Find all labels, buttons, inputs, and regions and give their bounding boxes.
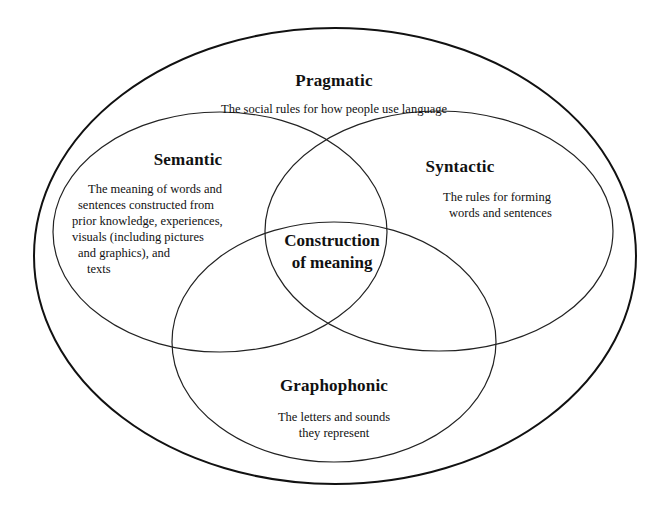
- graphophonic-title: Graphophonic: [249, 376, 419, 396]
- semantic-description: The meaning of words and sentences const…: [72, 181, 223, 277]
- syntactic-description: The rules for forming words and sentence…: [443, 189, 552, 221]
- semantic-desc-line: texts: [72, 261, 223, 277]
- semantic-desc-line: sentences constructed from: [72, 197, 223, 213]
- construction-of-meaning-label: Construction of meaning: [262, 230, 402, 274]
- semantic-desc-line: prior knowledge, experiences,: [72, 213, 223, 229]
- syntactic-desc-line: words and sentences: [443, 205, 552, 221]
- graphophonic-desc-line: they represent: [249, 425, 419, 441]
- pragmatic-description: The social rules for how people use lang…: [0, 101, 668, 117]
- syntactic-title: Syntactic: [395, 157, 525, 177]
- semantic-desc-line: and graphics), and: [72, 245, 223, 261]
- graphophonic-desc-line: The letters and sounds: [249, 409, 419, 425]
- pragmatic-title: Pragmatic: [0, 71, 668, 91]
- center-line-1: Construction: [262, 230, 402, 252]
- graphophonic-description: The letters and sounds they represent: [249, 409, 419, 441]
- semantic-title: Semantic: [128, 150, 248, 170]
- syntactic-desc-line: The rules for forming: [443, 189, 552, 205]
- semantic-desc-line: visuals (including pictures: [72, 229, 223, 245]
- center-line-2: of meaning: [262, 252, 402, 274]
- semantic-desc-line: The meaning of words and: [72, 181, 223, 197]
